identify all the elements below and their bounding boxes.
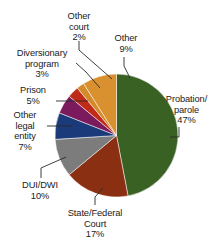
slice-label-probation-line2: parole xyxy=(159,105,214,116)
pie-slice-group xyxy=(55,74,178,197)
slice-label-probation-value: 47% xyxy=(159,115,214,126)
slice-label-prison-line1: Prison xyxy=(8,85,58,96)
slice-label-prison-value: 5% xyxy=(8,96,58,107)
slice-label-other-court-line1: Other xyxy=(55,11,103,22)
slice-label-other-legal-entity: Other legal entity 7% xyxy=(2,110,48,152)
slice-label-other-legal-line3: entity xyxy=(2,131,48,142)
pie-chart: Other court 2% Other 9% Diversionary pro… xyxy=(0,0,214,250)
slice-label-other-court: Other court 2% xyxy=(55,11,103,43)
slice-label-other-legal-line1: Other xyxy=(2,110,48,121)
slice-label-dui-dwi: DUI/DWI 10% xyxy=(12,180,68,201)
slice-label-state-federal-court: State/Federal Court 17% xyxy=(57,208,133,240)
slice-label-other-legal-value: 7% xyxy=(2,142,48,153)
slice-label-other-line1: Other xyxy=(106,33,146,44)
slice-label-probation-line1: Probation/ xyxy=(159,94,214,105)
slice-label-other-court-line2: court xyxy=(55,22,103,33)
pie-slice xyxy=(117,74,178,196)
slice-label-other-value: 9% xyxy=(106,44,146,55)
slice-label-probation-parole: Probation/ parole 47% xyxy=(159,94,214,126)
slice-label-state-fed-line1: State/Federal xyxy=(57,208,133,219)
slice-label-other-court-value: 2% xyxy=(55,32,103,43)
slice-label-state-fed-line2: Court xyxy=(57,219,133,230)
slice-label-diversionary-program: Diversionary program 3% xyxy=(8,48,76,80)
slice-label-diversionary-value: 3% xyxy=(8,69,76,80)
slice-label-state-fed-value: 17% xyxy=(57,229,133,240)
slice-label-other-legal-line2: legal xyxy=(2,121,48,132)
slice-label-other: Other 9% xyxy=(106,33,146,54)
slice-label-dui-line1: DUI/DWI xyxy=(12,180,68,191)
slice-label-diversionary-line1: Diversionary xyxy=(8,48,76,59)
slice-label-diversionary-line2: program xyxy=(8,59,76,70)
slice-label-dui-value: 10% xyxy=(12,191,68,202)
slice-label-prison: Prison 5% xyxy=(8,85,58,106)
